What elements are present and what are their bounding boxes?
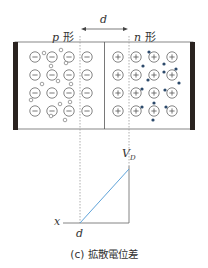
potential-label: VD [122,147,136,162]
donor-ion [113,52,123,62]
x-axis-label: x [54,215,60,228]
acceptor-ion [30,106,40,116]
acceptor-ion [47,70,57,80]
potential-graph [63,166,129,223]
hole [64,61,68,65]
donor-ion [149,52,159,62]
left-electrode [13,42,18,130]
donor-ion [167,106,177,116]
donor-ion [149,70,159,80]
hole [49,114,53,118]
donor-ion [167,52,177,62]
electron [146,78,149,81]
depletion-width-arrow [81,27,128,31]
d-tick-label: d [76,227,83,240]
acceptor-ion [64,106,74,116]
electron [163,88,166,91]
electron [164,105,167,108]
n-region-label: n 形 [134,28,156,44]
electron [162,62,165,65]
p-region-label: p 形 [52,28,74,44]
hole [59,48,63,52]
electron [152,101,155,104]
acceptor-ion [82,106,92,116]
acceptor-ion [30,52,40,62]
donor-ion [113,106,123,116]
hole [29,98,33,102]
electron [162,70,165,73]
potential-curve [80,169,129,223]
electron [177,81,180,84]
electron [141,64,144,67]
donor-ion [131,88,141,98]
donor-ion [131,106,141,116]
electron [174,67,177,70]
acceptor-ion [64,88,74,98]
right-electrode [190,42,195,130]
pn-junction-diagram [0,0,208,268]
depletion-width-label: d [100,13,107,26]
donor-ion [131,70,141,80]
acceptor-ion [82,70,92,80]
acceptor-ion [47,88,57,98]
donor-ion [113,70,123,80]
acceptor-ion [82,88,92,98]
donor-ion [149,88,159,98]
donor-ion [167,70,177,80]
acceptor-ion [47,52,57,62]
electron [140,105,143,108]
hole [68,100,72,104]
donor-ion [131,52,141,62]
electron [140,87,143,90]
acceptor-ion [82,52,92,62]
hole [69,82,73,86]
hole [40,82,44,86]
hole [49,64,53,68]
acceptor-ion [64,70,74,80]
hole [58,102,62,106]
figure-caption: (c) 拡散電位差 [0,246,208,261]
hole [56,79,60,83]
donor-ion [113,88,123,98]
hole [63,118,67,122]
hole [42,51,46,55]
acceptor-ion [30,70,40,80]
donor-ion [149,106,159,116]
acceptor-ion [64,52,74,62]
donor-ion [167,88,177,98]
acceptor-ion [30,88,40,98]
electron [147,50,150,53]
electron [151,118,154,121]
